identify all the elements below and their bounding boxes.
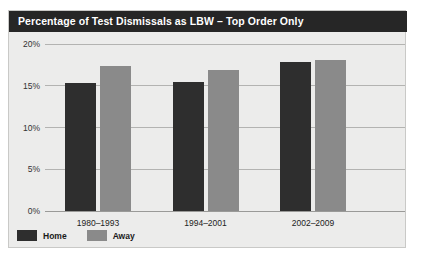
chart-screenshot: Percentage of Test Dismissals as LBW – T… <box>0 0 422 261</box>
legend-label-away: Away <box>113 231 135 241</box>
bar-home-0 <box>65 83 96 211</box>
legend-item-away: Away <box>87 230 135 241</box>
plot-area: 0%5%10%15%20%1980–19931994–20012002–2009 <box>45 44 405 211</box>
bar-away-0 <box>100 66 131 211</box>
y-axis-tick-label: 15% <box>23 81 40 91</box>
chart-title-bar: Percentage of Test Dismissals as LBW – T… <box>9 11 407 32</box>
bar-home-1 <box>173 82 204 211</box>
bar-away-2 <box>315 60 346 211</box>
bar-away-1 <box>208 70 239 211</box>
y-axis-tick-label: 20% <box>23 39 40 49</box>
chart-legend: Home Away <box>17 230 155 241</box>
bar-home-2 <box>280 62 311 211</box>
legend-swatch-away-icon <box>87 230 107 241</box>
legend-label-home: Home <box>43 231 67 241</box>
y-axis-tick-label: 5% <box>28 164 40 174</box>
page-title: Percentage of Test Dismissals as LBW – T… <box>18 15 304 27</box>
x-axis-category-label: 2002–2009 <box>292 218 335 228</box>
x-axis-category-label: 1980–1993 <box>77 218 120 228</box>
y-axis-tick-label: 10% <box>23 123 40 133</box>
y-axis-tick-label: 0% <box>28 206 40 216</box>
chart-panel: Percentage of Test Dismissals as LBW – T… <box>8 10 406 248</box>
gridline <box>45 44 405 45</box>
legend-swatch-home-icon <box>17 230 37 241</box>
legend-item-home: Home <box>17 230 67 241</box>
x-axis-category-label: 1994–2001 <box>184 218 227 228</box>
